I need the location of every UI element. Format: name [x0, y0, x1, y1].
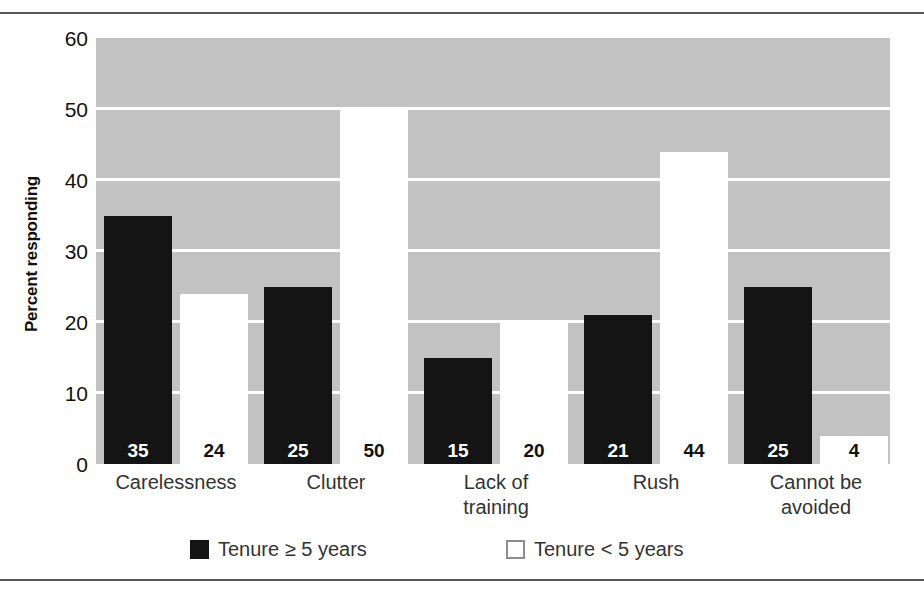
- x-label-cannot-be-avoided-line2: avoided: [736, 495, 896, 520]
- x-label-carelessness: Carelessness: [96, 470, 256, 495]
- bar-value-lack-of-training-tenure-ge5: 15: [424, 441, 492, 460]
- bar-group-lack-of-training: 15 20: [416, 38, 576, 464]
- bar-carelessness-tenure-lt5[interactable]: 24: [180, 294, 248, 464]
- x-label-clutter-line1: Clutter: [307, 471, 366, 493]
- bar-clutter-tenure-lt5[interactable]: 50: [340, 109, 408, 464]
- x-label-rush-line1: Rush: [633, 471, 680, 493]
- bar-value-carelessness-tenure-lt5: 24: [180, 441, 248, 460]
- y-tick-0: 0: [44, 454, 88, 475]
- bar-rush-tenure-lt5[interactable]: 44: [660, 152, 728, 464]
- chart-legend: Tenure ≥ 5 years Tenure < 5 years: [96, 534, 890, 568]
- bar-cannot-be-avoided-tenure-lt5[interactable]: 4: [820, 436, 888, 464]
- bar-value-cannot-be-avoided-tenure-lt5: 4: [820, 441, 888, 460]
- legend-label-tenure-lt5: Tenure < 5 years: [534, 539, 684, 559]
- bar-value-carelessness-tenure-ge5: 35: [104, 441, 172, 460]
- x-label-carelessness-line1: Carelessness: [115, 471, 236, 493]
- y-axis-title: Percent responding: [22, 154, 42, 354]
- bar-group-rush: 21 44: [576, 38, 736, 464]
- bar-group-cannot-be-avoided: 25 4: [736, 38, 896, 464]
- x-label-rush: Rush: [576, 470, 736, 495]
- legend-swatch-dark-icon: [190, 540, 209, 559]
- y-tick-40: 40: [44, 170, 88, 191]
- bar-value-cannot-be-avoided-tenure-ge5: 25: [744, 441, 812, 460]
- x-label-clutter: Clutter: [256, 470, 416, 495]
- x-axis-category-labels: Carelessness Clutter Lack of training Ru…: [96, 470, 890, 532]
- y-axis-tick-labels: 60 50 40 30 20 10 0: [44, 38, 88, 464]
- bar-lack-of-training-tenure-lt5[interactable]: 20: [500, 322, 568, 464]
- x-label-lack-of-training: Lack of training: [416, 470, 576, 520]
- bar-value-clutter-tenure-lt5: 50: [340, 441, 408, 460]
- legend-item-tenure-lt5[interactable]: Tenure < 5 years: [506, 534, 684, 564]
- legend-item-tenure-ge5[interactable]: Tenure ≥ 5 years: [190, 534, 367, 564]
- y-tick-60: 60: [44, 28, 88, 49]
- x-label-cannot-be-avoided: Cannot be avoided: [736, 470, 896, 520]
- y-tick-30: 30: [44, 241, 88, 262]
- y-tick-50: 50: [44, 99, 88, 120]
- legend-label-tenure-ge5: Tenure ≥ 5 years: [218, 539, 367, 559]
- x-label-lack-of-training-line2: training: [416, 495, 576, 520]
- bar-cannot-be-avoided-tenure-ge5[interactable]: 25: [744, 287, 812, 464]
- bar-carelessness-tenure-ge5[interactable]: 35: [104, 216, 172, 464]
- legend-swatch-light-icon: [506, 540, 525, 559]
- bar-rush-tenure-ge5[interactable]: 21: [584, 315, 652, 464]
- bar-lack-of-training-tenure-ge5[interactable]: 15: [424, 358, 492, 464]
- figure-caption-fragment: [4, 0, 304, 11]
- bar-chart: Percent responding 60 50 40 30 20 10 0 3…: [0, 14, 924, 576]
- bar-value-rush-tenure-lt5: 44: [660, 441, 728, 460]
- x-label-lack-of-training-line1: Lack of: [464, 471, 528, 493]
- figure-bottom-rule: [0, 579, 924, 581]
- y-tick-20: 20: [44, 312, 88, 333]
- bar-value-rush-tenure-ge5: 21: [584, 441, 652, 460]
- bar-value-lack-of-training-tenure-lt5: 20: [500, 441, 568, 460]
- bar-value-clutter-tenure-ge5: 25: [264, 441, 332, 460]
- bar-group-carelessness: 35 24: [96, 38, 256, 464]
- plot-area: 35 24 25 50 15 2: [96, 38, 890, 464]
- y-tick-10: 10: [44, 383, 88, 404]
- bar-clutter-tenure-ge5[interactable]: 25: [264, 287, 332, 464]
- bars-layer: 35 24 25 50 15 2: [96, 38, 890, 464]
- x-label-cannot-be-avoided-line1: Cannot be: [770, 471, 862, 493]
- bar-group-clutter: 25 50: [256, 38, 416, 464]
